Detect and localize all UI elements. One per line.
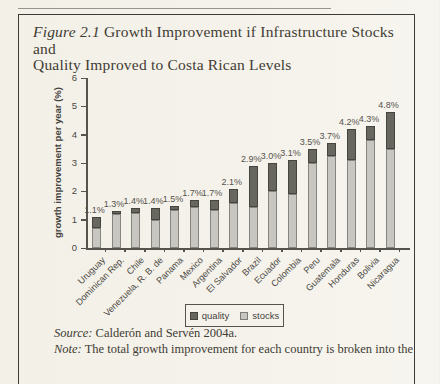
x-axis-tick bbox=[164, 248, 166, 252]
bar-total-label: 1.3% bbox=[98, 199, 130, 209]
bar-quality-segment bbox=[288, 160, 297, 194]
y-axis-tick bbox=[81, 219, 86, 221]
x-axis-tick bbox=[281, 248, 283, 252]
bar-quality-segment bbox=[229, 189, 238, 203]
x-axis-tick bbox=[340, 248, 342, 252]
y-tick-label: 1 bbox=[55, 214, 77, 225]
y-axis-tick bbox=[81, 78, 86, 80]
y-axis-tick bbox=[81, 191, 86, 193]
y-tick-label: 3 bbox=[55, 157, 77, 168]
bar-total-label: 1.4% bbox=[137, 196, 169, 206]
bar-stocks-segment bbox=[327, 156, 336, 248]
bar-stocks-segment bbox=[366, 140, 375, 248]
source-text: Calderón and Servén 2004a. bbox=[92, 326, 237, 340]
bar-stocks-segment bbox=[190, 207, 199, 248]
bar-quality-segment bbox=[112, 211, 121, 214]
bar-total-label: 1.7% bbox=[177, 188, 209, 198]
x-axis-tick bbox=[320, 248, 322, 252]
bar-quality-segment bbox=[92, 217, 101, 228]
bar-stocks-segment bbox=[347, 160, 356, 248]
source-line: Source: Calderón and Servén 2004a. bbox=[54, 326, 414, 342]
y-axis-line bbox=[86, 78, 88, 248]
bar-total-label: 3.1% bbox=[275, 148, 307, 158]
figure-footer: Source: Calderón and Servén 2004a. Note:… bbox=[54, 326, 414, 357]
x-axis-tick bbox=[144, 248, 146, 252]
bar-quality-segment bbox=[268, 163, 277, 191]
note-line: Note: The total growth improvement for e… bbox=[54, 342, 414, 358]
bar-total-label: 3.0% bbox=[255, 151, 287, 161]
bar-total-label: 1.7% bbox=[196, 188, 228, 198]
bar-total-label: 4.8% bbox=[373, 100, 405, 110]
quality-swatch-icon bbox=[190, 312, 198, 320]
legend-item-stocks: stocks bbox=[240, 310, 279, 321]
x-axis-line bbox=[86, 248, 410, 250]
y-axis-tick bbox=[81, 163, 86, 165]
bar-stocks-segment bbox=[229, 203, 238, 248]
figure-box: Figure 2.1 Growth Improvement if Infrast… bbox=[18, 14, 415, 384]
bar-quality-segment bbox=[327, 143, 336, 156]
y-tick-label: 4 bbox=[55, 129, 77, 140]
bar-stocks-segment bbox=[92, 228, 101, 248]
x-axis-tick bbox=[379, 248, 381, 252]
bar-total-label: 2.9% bbox=[235, 154, 267, 164]
y-axis-tick bbox=[81, 248, 86, 250]
y-tick-label: 6 bbox=[55, 72, 77, 83]
bar-total-label: 1.4% bbox=[118, 196, 150, 206]
bar-stocks-segment bbox=[131, 213, 140, 248]
x-axis-tick bbox=[301, 248, 303, 252]
bar-quality-segment bbox=[170, 206, 179, 210]
bar-stocks-segment bbox=[112, 214, 121, 248]
y-tick-label: 2 bbox=[55, 185, 77, 196]
bar-stocks-segment bbox=[386, 149, 395, 248]
x-axis-tick bbox=[222, 248, 224, 252]
x-axis-tick bbox=[360, 248, 362, 252]
bar-quality-segment bbox=[131, 208, 140, 212]
bar-quality-segment bbox=[210, 200, 219, 210]
bar-total-label: 3.5% bbox=[294, 137, 326, 147]
x-axis-tick bbox=[105, 248, 107, 252]
source-label: Source: bbox=[54, 326, 92, 340]
bar-total-label: 1.5% bbox=[157, 194, 189, 204]
bar-stocks-segment bbox=[288, 194, 297, 248]
legend-label-quality: quality bbox=[202, 310, 229, 321]
bar-stocks-segment bbox=[210, 210, 219, 248]
x-axis-tick bbox=[242, 248, 244, 252]
bar-quality-segment bbox=[347, 129, 356, 160]
bar-stocks-segment bbox=[308, 163, 317, 248]
bar-total-label: 4.2% bbox=[333, 117, 365, 127]
legend-item-quality: quality bbox=[190, 310, 229, 321]
x-axis-tick bbox=[262, 248, 264, 252]
bar-quality-segment bbox=[308, 149, 317, 163]
chart-legend: quality stocks bbox=[185, 304, 284, 327]
bar-total-label: 4.3% bbox=[353, 114, 385, 124]
legend-label-stocks: stocks bbox=[252, 310, 279, 321]
note-label: Note: bbox=[54, 342, 82, 356]
page-top-rule bbox=[18, 8, 331, 9]
figure-title: Figure 2.1 Growth Improvement if Infrast… bbox=[33, 24, 405, 74]
bar-quality-segment bbox=[249, 166, 258, 207]
y-tick-label: 5 bbox=[55, 100, 77, 111]
y-tick-label: 0 bbox=[55, 242, 77, 253]
y-axis-title: growth improvement per year (%) bbox=[52, 65, 65, 261]
bar-total-label: 3.7% bbox=[314, 131, 346, 141]
bar-stocks-segment bbox=[268, 191, 277, 248]
bar-stocks-segment bbox=[151, 220, 160, 248]
x-axis-tick bbox=[183, 248, 185, 252]
bar-quality-segment bbox=[386, 112, 395, 149]
x-axis-tick bbox=[124, 248, 126, 252]
bar-quality-segment bbox=[151, 208, 160, 219]
bar-stocks-segment bbox=[249, 207, 258, 248]
bar-stocks-segment bbox=[170, 210, 179, 248]
figure-number: Figure 2.1 bbox=[33, 23, 100, 40]
y-axis-tick bbox=[81, 106, 86, 108]
x-axis-tick bbox=[399, 248, 401, 252]
bar-total-label: 1.1% bbox=[79, 205, 111, 215]
bar-quality-segment bbox=[190, 200, 199, 207]
stocks-swatch-icon bbox=[240, 312, 248, 320]
figure-title-line2: Quality Improved to Costa Rican Levels bbox=[33, 56, 292, 73]
x-axis-tick bbox=[203, 248, 205, 252]
bar-quality-segment bbox=[366, 126, 375, 140]
note-text: The total growth improvement for each co… bbox=[82, 342, 413, 356]
bar-total-label: 2.1% bbox=[216, 177, 248, 187]
y-axis-tick bbox=[81, 134, 86, 136]
